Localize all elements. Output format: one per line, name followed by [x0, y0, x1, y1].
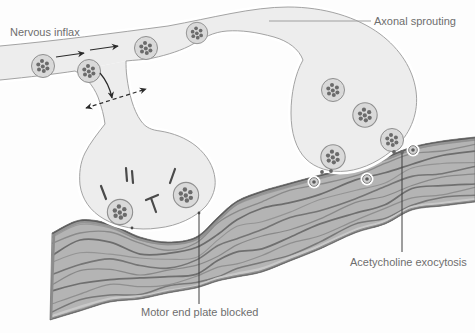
diagram: Nervous inflax Axonal sprouting Motor en…: [0, 0, 475, 333]
ach-dot: [329, 169, 333, 173]
label-axonal-sprouting: Axonal sprouting: [374, 15, 456, 27]
vesicle-cluster: [135, 37, 158, 60]
label-acetylcholine-exocytosis: Acetycholine exocytosis: [350, 256, 467, 268]
vesicle-cluster: [186, 22, 207, 43]
vesicle-cluster: [107, 199, 132, 224]
vesicle-cluster: [381, 129, 404, 152]
ach-dot: [392, 150, 396, 154]
vesicle-cluster: [173, 182, 198, 207]
released-vesicle: [407, 144, 420, 157]
diagram-canvas: [0, 0, 475, 333]
vesicle-cluster: [353, 103, 377, 127]
label-motor-end-plate-blocked: Motor end plate blocked: [141, 306, 258, 318]
leader-anchor-dot: [198, 212, 201, 215]
vesicle-cluster: [32, 55, 55, 78]
vesicle-cluster: [78, 60, 101, 83]
ach-dot: [400, 150, 404, 154]
block-mark: [132, 171, 133, 183]
leader-anchor-dot: [131, 227, 134, 230]
vesicle-cluster: [321, 145, 345, 169]
block-mark: [126, 168, 127, 181]
vesicle-cluster: [322, 79, 345, 102]
released-vesicle: [361, 173, 374, 186]
label-nervous-inflax: Nervous inflax: [10, 26, 80, 38]
ach-dot: [320, 170, 324, 174]
released-vesicle: [308, 176, 321, 189]
